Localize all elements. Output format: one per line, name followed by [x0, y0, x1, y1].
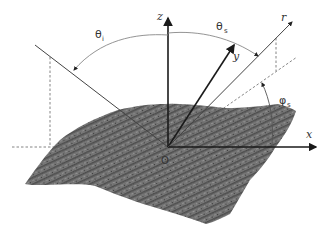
z-axis-label: z — [156, 10, 163, 23]
phi-s-label: φ s — [279, 94, 291, 109]
origin-label: O — [161, 155, 169, 166]
svg-text:i: i — [102, 35, 104, 43]
x-axis-label: x — [306, 128, 313, 141]
scattering-geometry-diagram: z y x r O θ i θ s φ s — [0, 0, 327, 238]
theta-s-label: θ s — [216, 20, 228, 35]
y-axis-label: y — [232, 50, 240, 63]
svg-text:θ: θ — [216, 20, 223, 33]
theta-i-arc — [74, 35, 168, 70]
svg-text:s: s — [224, 27, 228, 35]
r-ray-label: r — [281, 11, 287, 24]
theta-s-arc — [168, 32, 258, 56]
theta-i-label: θ i — [95, 28, 104, 43]
svg-text:φ: φ — [279, 94, 286, 107]
svg-text:θ: θ — [95, 28, 102, 41]
svg-text:s: s — [287, 101, 291, 109]
